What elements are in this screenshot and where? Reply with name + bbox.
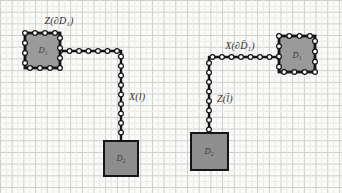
chain-operator-label-right: Z(l̄) xyxy=(217,93,233,105)
chain-beads-left xyxy=(60,51,121,141)
chain-operator-label-left: X(l) xyxy=(128,91,146,103)
solid-square-label-left: D₂ xyxy=(115,153,125,163)
boundary-operator-label-left: Z(∂D₁) xyxy=(44,15,74,27)
boundary-square-label-right: D̄₁ xyxy=(291,50,301,60)
figure-left: Z(∂D₁)X(l)D₁D₂ xyxy=(25,15,146,176)
graph-paper-canvas: Z(∂D₁)X(l)D₁D₂X(∂D̄₁)Z(l̄)D̄₁D̄₂ xyxy=(0,0,342,193)
chain-line-left xyxy=(60,51,121,141)
solid-square-label-right: D̄₂ xyxy=(203,146,213,156)
figure-right: X(∂D̄₁)Z(l̄)D̄₁D̄₂ xyxy=(191,36,315,170)
boundary-square-label-left: D₁ xyxy=(37,45,47,55)
diagram-svg: Z(∂D₁)X(l)D₁D₂X(∂D̄₁)Z(l̄)D̄₁D̄₂ xyxy=(0,0,342,193)
boundary-operator-label-right: X(∂D̄₁) xyxy=(224,40,255,52)
chain-bead-rings-left xyxy=(60,51,121,141)
